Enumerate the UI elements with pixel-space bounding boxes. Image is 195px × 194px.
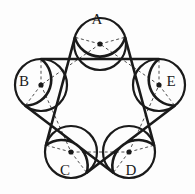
dashed-radius-D-0	[129, 145, 154, 152]
center-dot-E	[156, 82, 161, 87]
center-dot-A	[97, 41, 102, 46]
center-dot-C	[68, 149, 73, 154]
label-A: A	[92, 11, 103, 27]
label-C: C	[60, 162, 70, 178]
figure-container: ABCDE	[0, 0, 195, 194]
center-dot-D	[126, 149, 131, 154]
dashed-radius-A-0	[75, 37, 100, 44]
dashed-radius-C-1	[46, 145, 71, 152]
label-E: E	[166, 73, 175, 89]
label-D: D	[126, 162, 137, 178]
dashed-radius-A-1	[100, 37, 125, 44]
center-dot-B	[38, 82, 43, 87]
five-circle-pentagram-diagram: ABCDE	[0, 0, 195, 194]
label-B: B	[19, 73, 29, 89]
